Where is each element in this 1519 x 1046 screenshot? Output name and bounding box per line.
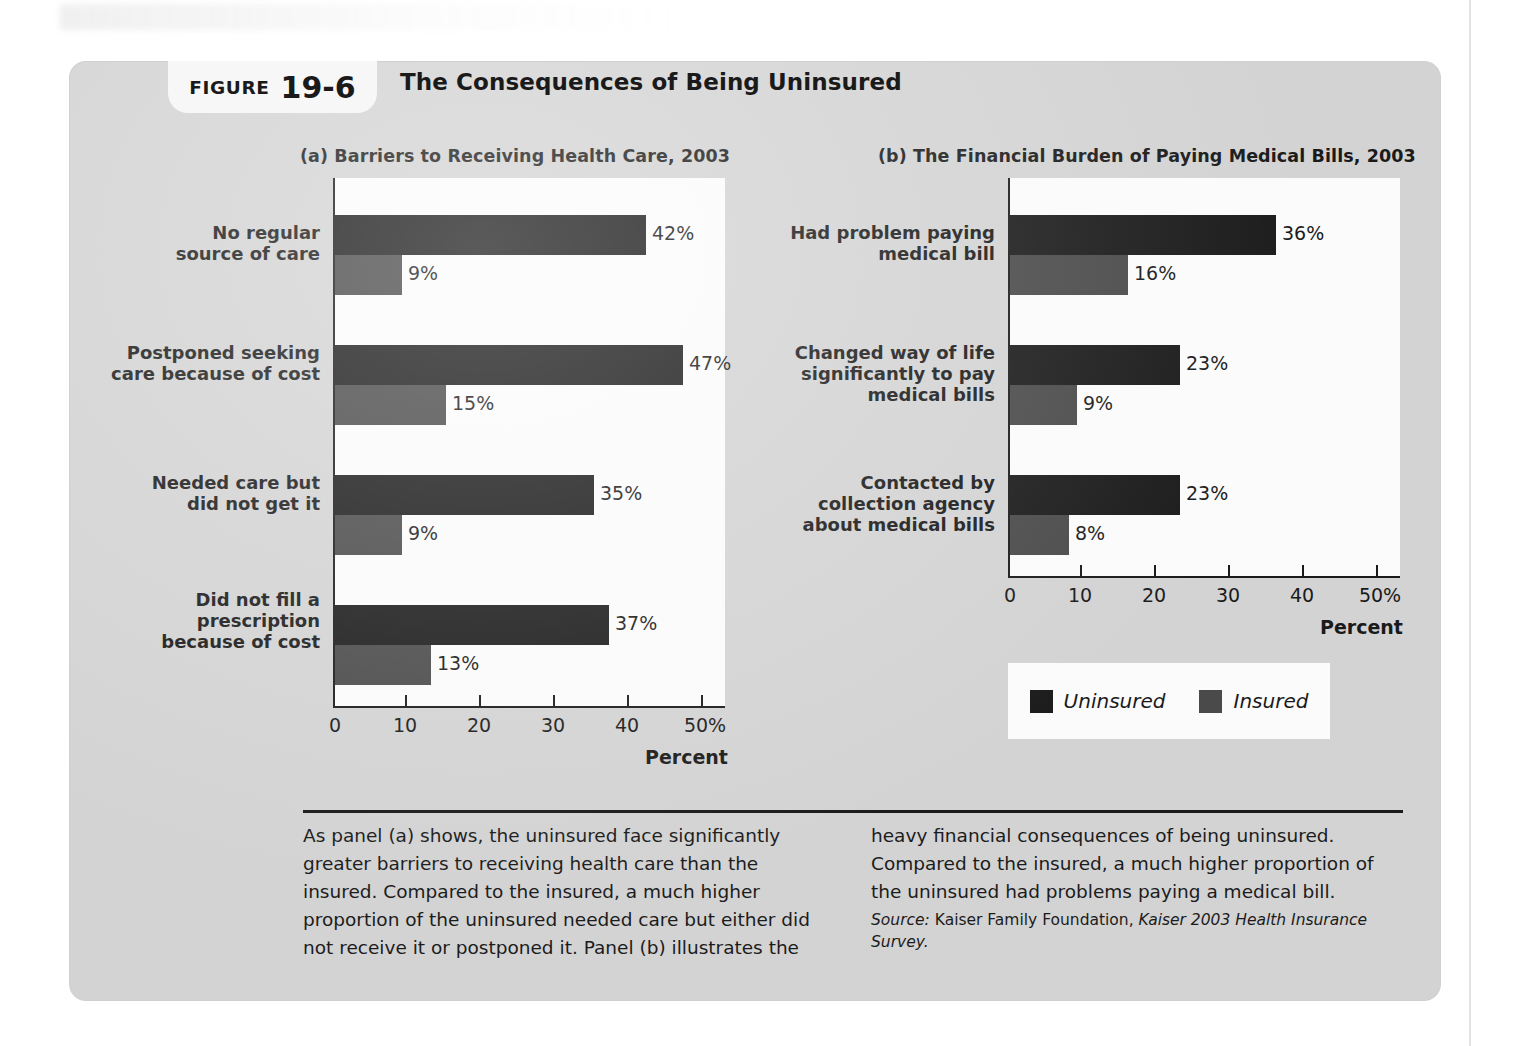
panel-a-value-insured-3: 9%: [408, 522, 438, 544]
panel-a-ticklabel-0: 0: [305, 714, 365, 736]
panel-a-tick-20: [479, 695, 481, 708]
page-edge-rule: [1469, 0, 1471, 1046]
legend-label-insured: Insured: [1233, 689, 1308, 713]
panel-a-bar-uninsured-3: [335, 475, 594, 515]
panel-b-value-insured-2: 9%: [1083, 392, 1113, 414]
panel-b-bar-insured-1: [1010, 255, 1128, 295]
panel-b-ticklabel-40: 40: [1272, 584, 1332, 606]
panel-a-tick-30: [553, 695, 555, 708]
panel-a-bar-uninsured-1: [335, 215, 646, 255]
panel-b-x-axis: [1008, 576, 1400, 578]
panel-a-bar-uninsured-4: [335, 605, 609, 645]
panel-b-value-uninsured-3: 23%: [1186, 482, 1228, 504]
panel-a-category-4: Did not fill aprescriptionbecause of cos…: [110, 589, 320, 652]
panel-a-bar-insured-2: [335, 385, 446, 425]
caption-text-right: heavy financial consequences of being un…: [871, 822, 1399, 906]
panel-b-value-insured-1: 16%: [1134, 262, 1176, 284]
panel-a-ticklabel-40: 40: [597, 714, 657, 736]
panel-b-ticklabel-10: 10: [1050, 584, 1110, 606]
panel-a-value-uninsured-4: 37%: [615, 612, 657, 634]
panel-a-value-insured-1: 9%: [408, 262, 438, 284]
panel-b-tick-50: [1376, 565, 1378, 578]
panel-a-category-1: No regularsource of care: [110, 222, 320, 264]
panel-a-category-2: Postponed seekingcare because of cost: [80, 342, 320, 384]
panel-a-value-uninsured-3: 35%: [600, 482, 642, 504]
panel-b-ticklabel-50: 50%: [1350, 584, 1410, 606]
source-org: Kaiser Family Foundation,: [930, 911, 1139, 929]
panel-b-tick-10: [1080, 565, 1082, 578]
panel-b-tick-30: [1228, 565, 1230, 578]
panel-a-title: (a) Barriers to Receiving Health Care, 2…: [300, 146, 730, 166]
legend-label-uninsured: Uninsured: [1064, 689, 1166, 713]
panel-a-tick-10: [405, 695, 407, 708]
scan-smudge: [60, 4, 680, 30]
panel-b-bar-insured-3: [1010, 515, 1069, 555]
panel-b-axis-label: Percent: [1320, 616, 1403, 638]
panel-a-axis-label: Percent: [645, 746, 728, 768]
panel-b-ticklabel-20: 20: [1124, 584, 1184, 606]
panel-b-value-uninsured-2: 23%: [1186, 352, 1228, 374]
figure-title: The Consequences of Being Uninsured: [400, 69, 902, 95]
panel-b-title: (b) The Financial Burden of Paying Medic…: [878, 146, 1416, 166]
source-label: Source:: [871, 911, 930, 929]
panel-b-category-1: Had problem payingmedical bill: [760, 222, 995, 264]
panel-b-tick-40: [1302, 565, 1304, 578]
panel-b-category-2: Changed way of lifesignificantly to paym…: [760, 342, 995, 405]
legend-swatch-insured-icon: [1199, 690, 1222, 713]
figure-panel: FIGURE 19-6 The Consequences of Being Un…: [70, 62, 1440, 1000]
panel-b-bar-uninsured-1: [1010, 215, 1276, 255]
caption-text-left: As panel (a) shows, the uninsured face s…: [303, 822, 831, 963]
panel-b-value-uninsured-1: 36%: [1282, 222, 1324, 244]
legend-item-uninsured: Uninsured: [1030, 689, 1166, 713]
panel-b-value-insured-3: 8%: [1075, 522, 1105, 544]
caption-column-left: As panel (a) shows, the uninsured face s…: [303, 822, 831, 963]
panel-a-ticklabel-50: 50%: [675, 714, 735, 736]
figure-badge-word: FIGURE: [189, 77, 269, 98]
panel-a-x-axis: [333, 706, 725, 708]
panel-a-bar-insured-4: [335, 645, 431, 685]
panel-b-bar-uninsured-2: [1010, 345, 1180, 385]
caption-divider: [303, 810, 1403, 813]
panel-a-ticklabel-30: 30: [523, 714, 583, 736]
panel-b-bar-insured-2: [1010, 385, 1077, 425]
legend-swatch-uninsured-icon: [1030, 690, 1053, 713]
panel-a-bar-insured-1: [335, 255, 402, 295]
caption-source: Source: Kaiser Family Foundation, Kaiser…: [871, 909, 1399, 953]
figure-number-badge: FIGURE 19-6: [168, 61, 377, 113]
panel-a-value-insured-4: 13%: [437, 652, 479, 674]
panel-a-ticklabel-10: 10: [375, 714, 435, 736]
panel-b-ticklabel-30: 30: [1198, 584, 1258, 606]
chart-legend: Uninsured Insured: [1008, 663, 1330, 739]
caption-column-right: heavy financial consequences of being un…: [871, 822, 1399, 963]
panel-b-tick-20: [1154, 565, 1156, 578]
panel-b-plot-area: [1008, 178, 1400, 578]
panel-b-ticklabel-0: 0: [980, 584, 1040, 606]
caption-block: As panel (a) shows, the uninsured face s…: [303, 822, 1413, 963]
panel-a-value-insured-2: 15%: [452, 392, 494, 414]
panel-a-bar-uninsured-2: [335, 345, 683, 385]
figure-badge-number: 19-6: [281, 70, 356, 105]
panel-b-bar-uninsured-3: [1010, 475, 1180, 515]
panel-b-category-3: Contacted bycollection agencyabout medic…: [760, 472, 995, 535]
panel-a-category-3: Needed care butdid not get it: [110, 472, 320, 514]
panel-a-tick-50: [701, 695, 703, 708]
legend-item-insured: Insured: [1199, 689, 1308, 713]
panel-a-value-uninsured-1: 42%: [652, 222, 694, 244]
panel-a-plot-area: [333, 178, 725, 708]
panel-a-value-uninsured-2: 47%: [689, 352, 731, 374]
panel-a-ticklabel-20: 20: [449, 714, 509, 736]
panel-a-tick-40: [627, 695, 629, 708]
panel-a-bar-insured-3: [335, 515, 402, 555]
